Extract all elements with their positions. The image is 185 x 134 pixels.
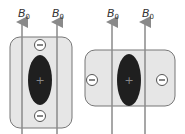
b0-label: B0 xyxy=(142,7,154,21)
panel-left: + B0 B0 xyxy=(10,7,72,134)
diagram: + B0 B0 + B0 B0 xyxy=(0,0,185,134)
panel-right: + B0 B0 xyxy=(85,7,175,134)
plus-sign-right: + xyxy=(124,74,133,87)
b0-label: B0 xyxy=(18,7,30,21)
b0-label: B0 xyxy=(52,7,64,21)
b0-label: B0 xyxy=(107,7,119,21)
plus-sign-left: + xyxy=(35,74,44,87)
